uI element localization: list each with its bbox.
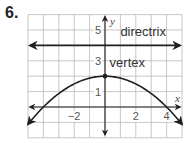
x-tick-label: 2 (133, 110, 139, 122)
x-tick-label: 4 (164, 110, 170, 122)
directrix-label: directrix (120, 24, 166, 39)
y-axis-label: y (109, 15, 115, 27)
parabola-graph: −224135xy directrixvertex (0, 0, 187, 143)
x-tick-label: −2 (68, 110, 81, 122)
annotations: directrixvertex (110, 24, 167, 70)
vertex-label: vertex (110, 55, 146, 70)
vertex-point (103, 74, 108, 79)
y-tick-label: 5 (95, 24, 101, 36)
y-tick-label: 1 (95, 86, 101, 98)
x-axis-label: x (174, 92, 180, 104)
y-tick-label: 3 (95, 55, 101, 67)
